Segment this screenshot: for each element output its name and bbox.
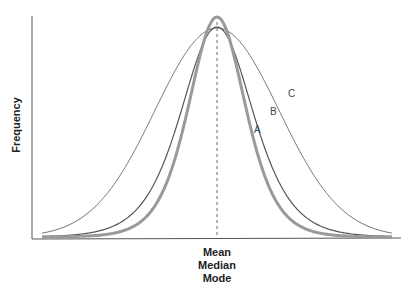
x-label-median: Median [177, 259, 257, 272]
x-axis-label: Mean Median Mode [177, 246, 257, 285]
curve-b-label: B [270, 106, 277, 117]
y-axis-label: Frequency [6, 90, 26, 160]
y-axis-label-text: Frequency [10, 97, 22, 153]
curve-a-label: A [254, 124, 261, 135]
x-label-mean: Mean [177, 246, 257, 259]
x-axis [32, 238, 401, 239]
curve-c-label: C [288, 88, 295, 99]
x-label-mode: Mode [177, 272, 257, 285]
